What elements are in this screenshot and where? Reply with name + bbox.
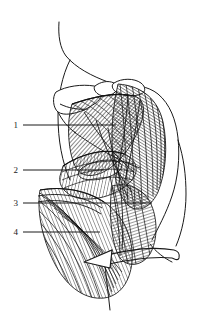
- label-number-4: 4: [6, 228, 18, 237]
- label-number-3: 3: [6, 199, 18, 208]
- label-number-2: 2: [6, 166, 18, 175]
- label-number-1: 1: [6, 121, 18, 130]
- anatomy-illustration: [0, 0, 207, 318]
- anatomy-figure: 1 2 3 4: [0, 0, 207, 318]
